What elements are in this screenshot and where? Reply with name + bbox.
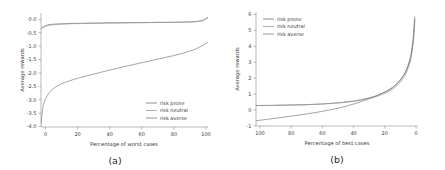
chart-a-svg: 0.0 -0.5 -1.0 -1.5 -2.0 -2.5 -3.0 -3.5 -… — [0, 0, 222, 170]
panel-b-ytick-label: 1 — [248, 91, 251, 97]
panel-a-ytick-label: -2.5 — [27, 83, 37, 89]
panel-a-legend[interactable]: risk prone risk neutral risk averse — [146, 100, 188, 121]
panel-b-ytick-label: 5 — [248, 27, 251, 33]
panel-a-xtick-label: 80 — [171, 131, 177, 137]
panel-b-ytick-label: 0 — [248, 107, 251, 113]
panel-b-legend[interactable]: risk prone risk neutral risk averse — [263, 16, 305, 37]
figure-container: 0.0 -0.5 -1.0 -1.5 -2.0 -2.5 -3.0 -3.5 -… — [0, 0, 445, 170]
panel-b-xtick-label: 80 — [288, 130, 294, 136]
panel-a-xaxis-label: Percentage of worst cases — [90, 141, 158, 148]
panel-b-ytick-label: 3 — [248, 59, 251, 65]
panel-b-xtick-label: 40 — [350, 130, 356, 136]
legend-label-risk-averse[interactable]: risk averse — [277, 31, 304, 37]
panel-a-ytick-labels: 0.0 -0.5 -1.0 -1.5 -2.0 -2.5 -3.0 -3.5 -… — [27, 16, 37, 129]
chart-b-svg: 6 5 4 3 2 1 0 -1 100 80 60 4 — [222, 0, 445, 170]
panel-b-ytick-label: 2 — [248, 75, 251, 81]
panel-b-xtick-label: 100 — [255, 130, 265, 136]
panel-a-ytick-label: -0.5 — [27, 30, 37, 36]
legend-label-risk-prone[interactable]: risk prone — [160, 100, 184, 107]
panel-a-xtick-label: 100 — [201, 131, 211, 137]
panel-a-ytick-label: -1.5 — [27, 56, 37, 62]
legend-label-risk-neutral[interactable]: risk neutral — [277, 23, 305, 29]
panel-a-ytick-label: -3.0 — [27, 97, 37, 103]
panel-a-yaxis-label: Average rewards — [19, 48, 26, 92]
panel-b-xaxis-label: Percentage of best cases — [305, 140, 370, 147]
legend-label-risk-prone[interactable]: risk prone — [277, 16, 301, 23]
panel-a-ytick-label: 0.0 — [29, 16, 37, 22]
panel-a-ytick-label: -4.0 — [27, 123, 37, 129]
panel-a-xtick-label: 40 — [107, 131, 113, 137]
panel-b-ytick-label: -1 — [247, 123, 252, 129]
panel-b: 6 5 4 3 2 1 0 -1 100 80 60 4 — [222, 0, 445, 170]
panel-a: 0.0 -0.5 -1.0 -1.5 -2.0 -2.5 -3.0 -3.5 -… — [0, 0, 222, 170]
legend-label-risk-neutral[interactable]: risk neutral — [160, 107, 188, 113]
panel-a-ytick-label: -2.0 — [27, 70, 37, 76]
panel-a-xtick-label: 0 — [44, 131, 47, 137]
panel-a-caption: (a) — [108, 155, 121, 166]
panel-a-ytick-label: -3.5 — [27, 110, 37, 116]
panel-b-caption: (b) — [330, 154, 343, 165]
panel-b-xtick-label: 0 — [414, 130, 417, 136]
panel-a-ytick-label: -1.0 — [27, 43, 37, 49]
panel-b-ytick-label: 6 — [248, 11, 251, 17]
panel-b-yaxis-label: Average rewards — [234, 47, 241, 91]
legend-label-risk-averse[interactable]: risk averse — [160, 115, 187, 121]
panel-b-ytick-label: 4 — [248, 43, 251, 49]
panel-a-xtick-label: 20 — [74, 131, 80, 137]
panel-a-xtick-label: 60 — [139, 131, 145, 137]
panel-b-xtick-label: 60 — [319, 130, 325, 136]
panel-b-xtick-label: 20 — [382, 130, 388, 136]
